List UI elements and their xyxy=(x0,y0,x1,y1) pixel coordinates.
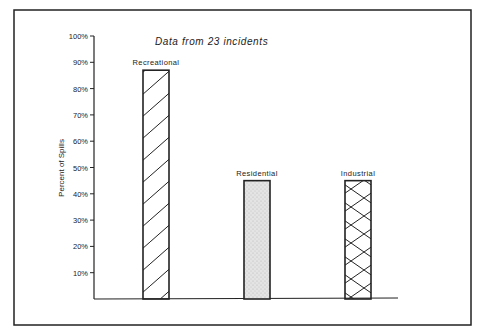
y-tick-label: 40% xyxy=(73,190,88,199)
bars: RecreationalResidentialIndustrial xyxy=(133,58,376,299)
bar-industrial xyxy=(345,181,371,299)
y-axis-label: Percent of Spills xyxy=(57,139,66,197)
y-tick-label: 10% xyxy=(73,269,88,278)
chart-title: Data from 23 incidents xyxy=(155,36,268,47)
bar-label: Recreational xyxy=(133,58,180,67)
chart-figure: Data from 23 incidents Percent of Spills… xyxy=(0,0,479,334)
y-tick-label: 20% xyxy=(73,242,88,251)
y-tick-label: 80% xyxy=(73,85,88,94)
bar-label: Residential xyxy=(236,169,278,178)
y-tick-label: 90% xyxy=(73,58,88,67)
bar-recreational xyxy=(143,70,169,299)
y-tick-label: 50% xyxy=(73,164,88,173)
y-tick-label: 70% xyxy=(73,111,88,120)
y-ticks: 10%20%30%40%50%60%70%80%90%100% xyxy=(69,32,94,278)
y-tick-label: 60% xyxy=(73,137,88,146)
y-tick-label: 100% xyxy=(69,32,89,41)
bar-label: Industrial xyxy=(341,169,375,178)
bar-residential xyxy=(244,181,270,299)
y-tick-label: 30% xyxy=(73,216,88,225)
